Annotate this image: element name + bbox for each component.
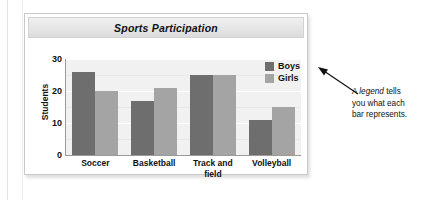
- legend-swatch-boys: [265, 62, 274, 71]
- y-tick-label: 10: [40, 119, 62, 128]
- bar-girls: [154, 88, 177, 155]
- x-axis-label: Track andfield: [184, 158, 243, 179]
- x-axis-label: Volleyball: [242, 158, 301, 179]
- annotation-emphasis-legend: legend: [359, 87, 384, 96]
- y-tick-label: 30: [40, 55, 62, 64]
- page-gutter-line-secondary: [22, 0, 23, 200]
- annotation-line-1: A legend tells: [352, 86, 432, 98]
- annotation-line-2: you what each: [352, 98, 432, 110]
- annotation-text: A legend tells you what each bar represe…: [352, 86, 432, 121]
- chart-card: Sports Participation Students 3020100 So…: [24, 13, 308, 175]
- bar-boys: [190, 75, 213, 155]
- y-tick-label: 20: [40, 87, 62, 96]
- chart-legend: BoysGirls: [265, 62, 300, 83]
- bar-group: [66, 59, 125, 155]
- chart-title-bar: Sports Participation: [28, 17, 304, 38]
- bar-girls: [95, 91, 118, 155]
- bar-girls: [213, 75, 236, 155]
- annotation-line1-post: tells: [384, 87, 401, 96]
- bar-boys: [72, 72, 95, 155]
- legend-item-boys: Boys: [265, 62, 300, 71]
- annotation-line-3: bar represents.: [352, 109, 432, 121]
- y-axis-tick-labels: 3020100: [40, 59, 62, 155]
- x-axis-label: Basketball: [125, 158, 184, 179]
- bar-group: [125, 59, 184, 155]
- bar-girls: [272, 107, 295, 155]
- page-gutter-line: [7, 0, 8, 200]
- plot-wrapper: Students 3020100 SoccerBasketballTrack a…: [28, 41, 304, 171]
- legend-label: Girls: [278, 74, 299, 83]
- bar-boys: [249, 120, 272, 155]
- legend-item-girls: Girls: [265, 74, 300, 83]
- chart-title: Sports Participation: [114, 22, 218, 34]
- legend-swatch-girls: [265, 74, 274, 83]
- bar-boys: [131, 101, 154, 155]
- y-tick-label: 0: [40, 151, 62, 160]
- legend-label: Boys: [278, 62, 300, 71]
- bar-group: [184, 59, 243, 155]
- x-axis-label: Soccer: [66, 158, 125, 179]
- x-axis-category-labels: SoccerBasketballTrack andfieldVolleyball: [66, 158, 301, 179]
